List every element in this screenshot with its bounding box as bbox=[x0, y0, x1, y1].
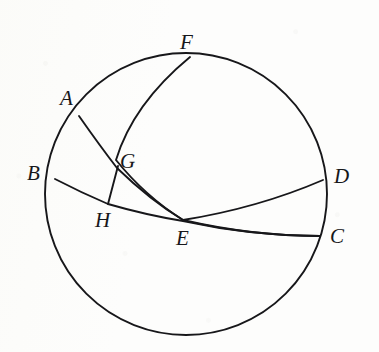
arc-F-E-C bbox=[116, 57, 320, 236]
figure-canvas: A B C D E F G H bbox=[0, 0, 379, 352]
arc-A-G-E-D bbox=[79, 116, 323, 220]
point-label-B: B bbox=[27, 163, 40, 184]
point-label-H: H bbox=[95, 210, 110, 231]
point-label-A: A bbox=[60, 88, 73, 109]
segment-G-H bbox=[108, 166, 118, 204]
point-label-D: D bbox=[334, 166, 349, 187]
point-label-F: F bbox=[180, 32, 193, 53]
point-label-G: G bbox=[120, 151, 135, 172]
point-label-E: E bbox=[176, 228, 189, 249]
point-label-C: C bbox=[330, 226, 344, 247]
